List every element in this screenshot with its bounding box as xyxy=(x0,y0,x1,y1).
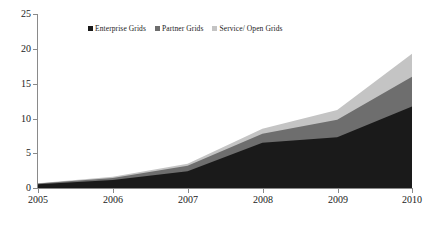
legend-label: Service/ Open Grids xyxy=(219,24,282,33)
y-axis-tick-label: 0 xyxy=(5,183,31,193)
plot-area xyxy=(38,14,412,188)
legend-swatch-icon xyxy=(212,26,217,31)
legend-label: Partner Grids xyxy=(162,24,204,33)
x-axis-tick-label: 2007 xyxy=(166,194,210,205)
legend-label: Enterprise Grids xyxy=(95,24,146,33)
y-axis-tick-label: 20 xyxy=(5,44,31,54)
x-axis-tick-label: 2009 xyxy=(316,194,360,205)
x-axis-tick xyxy=(113,189,114,193)
x-axis-tick-label: 2010 xyxy=(390,194,434,205)
legend-item-partner-grids: Partner Grids xyxy=(155,24,204,33)
y-axis-labels: 25 20 15 10 5 0 xyxy=(0,0,31,225)
y-axis-tick-label: 25 xyxy=(5,9,31,19)
x-axis-line xyxy=(37,188,413,189)
chart-legend: Enterprise Grids Partner Grids Service/ … xyxy=(88,24,283,33)
x-axis-tick xyxy=(263,189,264,193)
legend-item-enterprise-grids: Enterprise Grids xyxy=(88,24,146,33)
y-axis-tick-label: 5 xyxy=(5,148,31,158)
area-chart: 25 20 15 10 5 0 2005 2006 2007 2008 2009… xyxy=(0,0,437,225)
x-axis-tick xyxy=(38,189,39,193)
x-axis-tick-label: 2006 xyxy=(91,194,135,205)
legend-swatch-icon xyxy=(155,26,160,31)
x-axis-tick xyxy=(412,189,413,193)
x-axis-tick-label: 2008 xyxy=(241,194,285,205)
stacked-area-series xyxy=(38,14,412,188)
y-axis-tick-label: 15 xyxy=(5,79,31,89)
legend-swatch-icon xyxy=(88,26,93,31)
x-axis-tick-label: 2005 xyxy=(16,194,60,205)
x-axis-tick xyxy=(338,189,339,193)
y-axis-tick-label: 10 xyxy=(5,114,31,124)
x-axis-tick xyxy=(188,189,189,193)
legend-item-service-open-grids: Service/ Open Grids xyxy=(212,24,282,33)
